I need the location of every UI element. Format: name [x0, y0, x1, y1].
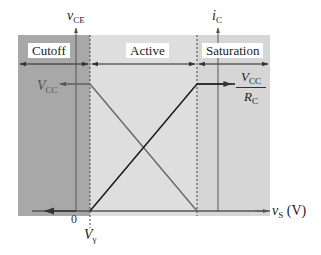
vcc-subscript: CC [46, 85, 58, 95]
v-gamma-label: Vγ [84, 228, 97, 244]
active-label: Active [126, 43, 169, 58]
cutoff-region-bg [18, 35, 90, 216]
origin-label: 0 [71, 213, 77, 225]
vcc-symbol: V [37, 78, 46, 93]
vcc-over-rc-numerator: VCC [241, 69, 261, 84]
ic-subscript: C [216, 15, 222, 25]
active-region-bg [90, 35, 197, 216]
bjt-transfer-characteristic-diagram: Cutoff Active Saturation vCE iC vS (V) V… [0, 0, 321, 255]
vs-subscript: S [278, 210, 283, 220]
vcc-label: VCC [37, 79, 58, 95]
vce-axis-label: vCE [67, 9, 85, 25]
vs-axis-label: vS (V) [272, 204, 306, 220]
cutoff-label: Cutoff [28, 43, 70, 58]
denominator-subscript: C [252, 96, 258, 106]
denominator-symbol: R [244, 89, 252, 104]
v-gamma-subscript: γ [93, 234, 97, 244]
vce-subscript: CE [73, 15, 85, 25]
saturation-region-bg [197, 35, 270, 216]
fraction-bar [236, 87, 266, 88]
numerator-symbol: V [241, 69, 249, 84]
vcc-over-rc-label: VCC RC [236, 69, 266, 106]
vcc-over-rc-denominator: RC [244, 89, 258, 104]
vs-unit: (V) [287, 203, 306, 218]
ic-axis-label: iC [212, 9, 222, 25]
v-gamma-symbol: V [84, 227, 93, 242]
numerator-subscript: CC [249, 76, 261, 86]
saturation-label: Saturation [202, 43, 263, 58]
